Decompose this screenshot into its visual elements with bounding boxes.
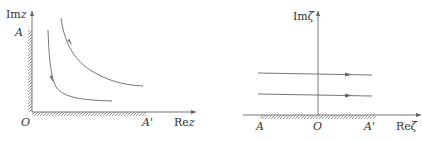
origin-label-z: O <box>21 116 30 129</box>
imag-axis-label-z: Imz <box>6 8 27 21</box>
flow-arrow-icon <box>345 73 352 77</box>
flow-arrow-icon <box>345 94 352 98</box>
streamline-inner-z <box>48 30 112 101</box>
point-a-label-zeta: A <box>255 120 264 133</box>
streamline-upper-zeta <box>258 73 372 75</box>
conformal-map-diagram: Imz A O A' Rez Imζ A O A' Reζ <box>0 0 422 141</box>
real-axis-wall-hatch <box>32 112 146 116</box>
point-a-prime-label-zeta: A' <box>363 120 375 133</box>
imag-axis-wall-hatch <box>28 30 32 112</box>
point-a-prime-label-z: A' <box>141 116 153 129</box>
real-axis-label-z: Rez <box>174 116 195 129</box>
point-a-label-z: A <box>14 26 23 39</box>
z-plane-panel: Imz A O A' Rez <box>6 8 196 129</box>
zeta-plane-panel: Imζ A O A' Reζ <box>243 10 421 133</box>
imag-axis-label-zeta: Imζ <box>293 10 315 23</box>
real-axis-label-zeta: Reζ <box>396 120 418 133</box>
real-axis-wall-hatch-zeta <box>260 115 376 119</box>
streamline-lower-zeta <box>258 94 372 96</box>
streamline-outer-z <box>61 18 143 86</box>
origin-label-zeta: O <box>313 120 322 133</box>
